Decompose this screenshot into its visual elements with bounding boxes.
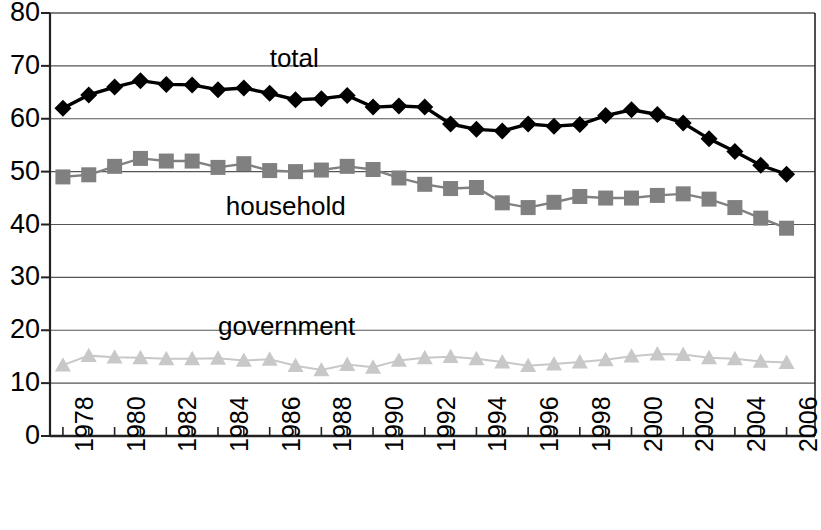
triangle-marker	[81, 348, 97, 362]
diamond-marker	[623, 101, 640, 118]
annotation-household: household	[226, 193, 346, 219]
x-tick-label: 1992	[434, 396, 459, 452]
diamond-marker	[726, 143, 743, 160]
x-tick-label: 2000	[641, 396, 666, 452]
x-tick-label: 1982	[175, 396, 200, 452]
x-tick-label: 1990	[382, 396, 407, 452]
series-household	[55, 151, 794, 236]
square-marker	[340, 159, 355, 174]
diamond-marker	[494, 122, 511, 139]
diamond-marker	[442, 116, 459, 133]
square-marker	[314, 163, 329, 178]
diamond-marker	[184, 76, 201, 93]
diamond-marker	[158, 76, 175, 93]
y-axis-ticks	[41, 13, 50, 436]
triangle-marker	[443, 349, 459, 363]
square-marker	[469, 180, 484, 195]
diamond-marker	[390, 98, 407, 115]
square-marker	[185, 154, 200, 169]
diamond-marker	[106, 79, 123, 96]
square-marker	[210, 160, 225, 175]
annotation-government: government	[218, 313, 355, 339]
y-tick-label: 70	[0, 52, 40, 79]
diamond-marker	[675, 114, 692, 131]
square-marker	[443, 181, 458, 196]
y-tick-label: 80	[0, 0, 40, 26]
diamond-marker	[649, 106, 666, 123]
y-tick-label: 60	[0, 105, 40, 132]
square-marker	[650, 188, 665, 203]
square-marker	[598, 191, 613, 206]
diamond-marker	[416, 99, 433, 116]
diamond-marker	[339, 87, 356, 104]
x-axis-ticks	[63, 427, 787, 436]
square-marker	[391, 170, 406, 185]
diamond-marker	[209, 81, 226, 98]
square-marker	[521, 200, 536, 215]
diamond-marker	[545, 118, 562, 135]
triangle-marker	[55, 357, 71, 371]
square-marker	[159, 154, 174, 169]
x-tick-label: 2002	[692, 396, 717, 452]
y-tick-label: 40	[0, 211, 40, 238]
square-marker	[702, 192, 717, 207]
x-tick-label: 1988	[330, 396, 355, 452]
square-marker	[624, 191, 639, 206]
x-tick-label: 1998	[589, 396, 614, 452]
x-tick-label: 1980	[124, 396, 149, 452]
square-marker	[133, 151, 148, 166]
square-marker	[262, 163, 277, 178]
x-tick-label: 1996	[537, 396, 562, 452]
diamond-marker	[80, 86, 97, 103]
diamond-marker	[313, 90, 330, 107]
square-marker	[676, 186, 691, 201]
x-tick-label: 1984	[227, 396, 252, 452]
diamond-marker	[468, 121, 485, 138]
square-marker	[366, 162, 381, 177]
y-tick-label: 0	[0, 422, 40, 449]
diamond-marker	[520, 116, 537, 133]
diamond-marker	[287, 91, 304, 108]
square-marker	[236, 156, 251, 171]
square-marker	[753, 211, 768, 226]
diamond-marker	[132, 72, 149, 89]
square-marker	[107, 159, 122, 174]
annotation-total: total	[270, 45, 319, 71]
diamond-marker	[235, 80, 252, 97]
square-marker	[288, 164, 303, 179]
square-marker	[572, 189, 587, 204]
triangle-marker	[262, 351, 278, 365]
square-marker	[55, 169, 70, 184]
square-marker	[727, 200, 742, 215]
square-marker	[546, 195, 561, 210]
diamond-marker	[261, 85, 278, 102]
y-tick-label: 20	[0, 316, 40, 343]
y-tick-label: 50	[0, 158, 40, 185]
diamond-marker	[365, 99, 382, 116]
square-marker	[81, 167, 96, 182]
square-marker	[779, 221, 794, 236]
x-tick-label: 1986	[279, 396, 304, 452]
series-government	[55, 346, 795, 376]
diamond-marker	[54, 100, 71, 117]
y-tick-label: 10	[0, 369, 40, 396]
y-tick-label: 30	[0, 263, 40, 290]
diamond-marker	[597, 107, 614, 124]
line-chart: 80706050403020100 1978198019821984198619…	[0, 0, 821, 530]
diamond-marker	[778, 166, 795, 183]
triangle-marker	[339, 357, 355, 371]
x-tick-label: 1978	[72, 396, 97, 452]
square-marker	[495, 195, 510, 210]
x-tick-label: 2006	[796, 396, 821, 452]
x-tick-label: 1994	[485, 396, 510, 452]
diamond-marker	[701, 130, 718, 147]
square-marker	[417, 177, 432, 192]
x-tick-label: 2004	[744, 396, 769, 452]
